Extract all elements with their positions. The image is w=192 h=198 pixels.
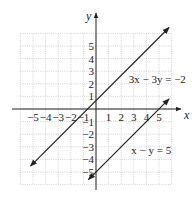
x-tick-label: 2 (118, 111, 124, 123)
axes: xy (12, 9, 190, 190)
x-tick-label: −5 (27, 111, 39, 123)
y-tick-label: −4 (82, 153, 94, 165)
x-tick-label: 3 (131, 111, 137, 123)
y-tick-label: 1 (89, 90, 95, 102)
y-tick-label: 2 (89, 78, 95, 90)
y-tick-label: −3 (82, 141, 94, 153)
x-tick-label: 5 (156, 111, 162, 123)
y-tick-label: −2 (82, 128, 94, 140)
equation-label-1: x − y = 5 (131, 144, 171, 156)
y-tick-label: −5 (82, 166, 94, 178)
y-tick-label: −1 (82, 116, 94, 128)
y-tick-label: 5 (89, 40, 95, 52)
equation-label-0: 3x − 3y = −2 (129, 73, 186, 85)
x-tick-label: −4 (40, 111, 52, 123)
y-tick-label: 3 (89, 65, 95, 77)
series-line-1 (88, 99, 169, 180)
coordinate-plane-chart: xy −5−4−3−2−112345−5−4−3−2−112345 3x − 3… (0, 0, 192, 198)
x-axis-label: x (183, 108, 190, 122)
x-tick-label: −3 (52, 111, 64, 123)
data-lines (30, 27, 169, 179)
y-axis-label: y (85, 9, 92, 23)
y-tick-label: 4 (89, 53, 95, 65)
x-tick-label: 1 (106, 111, 112, 123)
